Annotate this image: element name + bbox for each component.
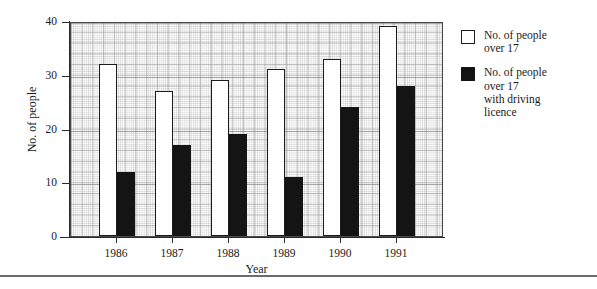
legend-swatch-light-icon (461, 30, 475, 44)
legend-entry-over-17: No. of people over 17 (461, 29, 593, 55)
x-tick-mark-1987 (172, 237, 173, 243)
x-tick-mark-1986 (116, 237, 117, 243)
y-axis-title: No. of people (25, 60, 40, 180)
x-tick-mark-1991 (396, 237, 397, 243)
x-tick-mark-1989 (284, 237, 285, 243)
y-tick-mark-20 (62, 130, 70, 131)
bar-dark-1989 (285, 177, 303, 236)
x-tick-label-1989: 1989 (256, 247, 312, 259)
bar-light-1991 (379, 26, 397, 236)
bar-chart-figure: 40 30 20 10 0 1986 1987 1988 1989 1990 1… (0, 0, 597, 289)
bar-light-1989 (267, 69, 285, 236)
bar-dark-1988 (229, 134, 247, 236)
x-tick-mark-1990 (340, 237, 341, 243)
bar-dark-1991 (397, 86, 415, 237)
y-tick-mark-40 (62, 22, 70, 23)
bar-light-1986 (99, 64, 117, 236)
x-axis-line (60, 237, 445, 238)
legend-swatch-dark-icon (461, 67, 475, 81)
x-tick-label-1987: 1987 (144, 247, 200, 259)
y-tick-label-0: 0 (31, 231, 57, 243)
x-tick-label-1990: 1990 (312, 247, 368, 259)
bar-dark-1986 (117, 172, 135, 237)
plot-area (70, 22, 443, 237)
bar-dark-1987 (173, 145, 191, 236)
y-tick-mark-30 (62, 76, 70, 77)
bar-light-1988 (211, 80, 229, 236)
y-tick-mark-10 (62, 183, 70, 184)
legend-entry-driving-licence: No. of people over 17 with driving licen… (461, 66, 593, 119)
gridline-40 (71, 23, 442, 24)
bar-light-1990 (323, 59, 341, 236)
x-tick-label-1991: 1991 (368, 247, 424, 259)
x-tick-label-1988: 1988 (200, 247, 256, 259)
bar-light-1987 (155, 91, 173, 236)
legend-label-over-17: No. of people over 17 (484, 29, 547, 55)
y-tick-mark-0 (62, 237, 70, 238)
x-tick-label-1986: 1986 (88, 247, 144, 259)
y-tick-label-40: 40 (31, 16, 57, 28)
x-tick-mark-1988 (228, 237, 229, 243)
legend-label-driving-licence: No. of people over 17 with driving licen… (484, 66, 547, 119)
chart-legend: No. of people over 17 No. of people over… (461, 29, 593, 130)
bar-dark-1990 (341, 107, 359, 236)
footer-divider (0, 275, 597, 277)
